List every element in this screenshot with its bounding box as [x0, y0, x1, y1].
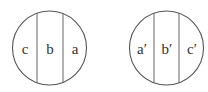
left-circle: c b a: [13, 0, 87, 92]
segment-label-left-3: a: [72, 41, 79, 57]
diagram: c b a a′ b′ c′: [0, 0, 208, 92]
segment-label-left-1: c: [22, 41, 29, 57]
segment-label-right-2: b′: [162, 41, 173, 57]
segment-label-right-3: c′: [187, 41, 197, 57]
right-circle: a′ b′ c′: [130, 0, 204, 92]
segment-label-left-2: b: [46, 41, 54, 57]
segment-label-right-1: a′: [137, 41, 147, 57]
